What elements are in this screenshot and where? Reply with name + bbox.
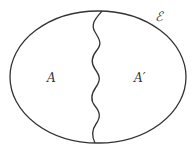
universe-ellipse <box>10 11 186 143</box>
region-a-complement-label: A′ <box>134 72 145 84</box>
region-a-label: A <box>47 72 56 84</box>
diagram-canvas <box>0 0 194 152</box>
wavy-divider <box>92 11 102 143</box>
universe-label: ℰ <box>155 10 163 23</box>
set-diagram: A A′ ℰ <box>0 0 194 152</box>
